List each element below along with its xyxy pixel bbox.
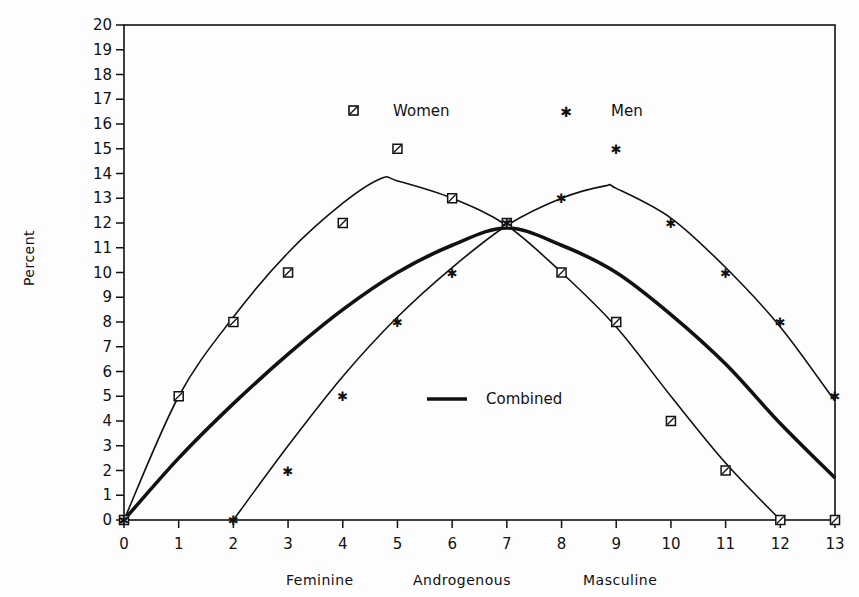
women-fit-curve	[124, 177, 780, 520]
x-tick-label: 1	[174, 535, 184, 553]
y-tick-label: 12	[93, 214, 112, 232]
star-icon: ✱	[447, 266, 458, 281]
y-axis: 01234567891011121314151617181920	[93, 16, 124, 529]
x-tick-label: 5	[393, 535, 403, 553]
star-icon: ✱	[228, 513, 239, 528]
legend-label-men: Men	[611, 102, 643, 120]
star-icon: ✱	[611, 142, 622, 157]
gender-distribution-chart: 01234567891011121314151617181920 0123456…	[0, 0, 859, 597]
y-tick-label: 18	[93, 66, 112, 84]
women-data-point	[338, 219, 347, 228]
x-axis-title-masculine: Masculine	[583, 572, 657, 588]
legend-label-combined: Combined	[486, 390, 562, 408]
women-data-point	[612, 318, 621, 327]
x-tick-label: 2	[229, 535, 239, 553]
legend-item-women: Women	[349, 102, 449, 120]
y-tick-label: 1	[102, 486, 112, 504]
x-axis-title-androgenous: Androgenous	[413, 572, 511, 588]
y-tick-label: 11	[93, 239, 112, 257]
women-data-point	[721, 466, 730, 475]
y-tick-label: 19	[93, 41, 112, 59]
women-data-point	[831, 516, 840, 525]
star-icon: ✱	[665, 216, 676, 231]
star-icon: ✱	[392, 315, 403, 330]
x-tick-label: 7	[502, 535, 512, 553]
y-tick-label: 3	[102, 437, 112, 455]
y-tick-label: 15	[93, 140, 112, 158]
star-icon: ✱	[560, 104, 572, 120]
star-icon: ✱	[337, 389, 348, 404]
star-icon: ✱	[501, 216, 512, 231]
x-axis-title-feminine: Feminine	[286, 572, 354, 588]
star-icon: ✱	[775, 315, 786, 330]
x-tick-label: 13	[825, 535, 844, 553]
legend-item-combined: Combined	[427, 390, 562, 408]
y-tick-label: 20	[93, 16, 112, 34]
y-tick-label: 16	[93, 115, 112, 133]
y-tick-label: 2	[102, 462, 112, 480]
y-tick-label: 7	[102, 338, 112, 356]
women-data-point	[393, 144, 402, 153]
star-icon: ✱	[830, 389, 841, 404]
y-tick-label: 0	[102, 511, 112, 529]
y-tick-label: 9	[102, 288, 112, 306]
x-tick-label: 12	[771, 535, 790, 553]
x-tick-label: 0	[119, 535, 129, 553]
y-tick-label: 4	[102, 412, 112, 430]
y-tick-label: 10	[93, 264, 112, 282]
women-data-point	[174, 392, 183, 401]
women-data-point	[666, 417, 675, 426]
star-icon: ✱	[283, 464, 294, 479]
y-tick-label: 13	[93, 189, 112, 207]
x-tick-label: 6	[447, 535, 457, 553]
square-slash-icon-slash	[350, 107, 357, 114]
x-tick-label: 3	[283, 535, 293, 553]
y-tick-label: 17	[93, 90, 112, 108]
y-axis-title: Percent	[21, 230, 37, 286]
x-tick-label: 4	[338, 535, 348, 553]
women-data-point	[557, 268, 566, 277]
x-tick-label: 11	[716, 535, 735, 553]
x-tick-label: 9	[611, 535, 621, 553]
women-data-point	[229, 318, 238, 327]
y-tick-label: 8	[102, 313, 112, 331]
y-tick-label: 6	[102, 363, 112, 381]
y-tick-label: 14	[93, 165, 112, 183]
legend-label-women: Women	[393, 102, 449, 120]
star-icon: ✱	[119, 513, 130, 528]
star-icon: ✱	[556, 191, 567, 206]
legend-item-men: ✱ Men	[560, 102, 643, 120]
women-data-point	[284, 268, 293, 277]
x-tick-label: 10	[661, 535, 680, 553]
x-tick-label: 8	[557, 535, 567, 553]
y-tick-label: 5	[102, 387, 112, 405]
star-icon: ✱	[720, 266, 731, 281]
women-data-point	[448, 194, 457, 203]
women-data-point	[776, 516, 785, 525]
